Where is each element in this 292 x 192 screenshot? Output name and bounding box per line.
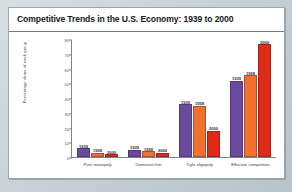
x-axis-category-label: Pure monopoly — [72, 162, 123, 167]
bar[interactable]: 2000 — [258, 44, 271, 157]
bar-groups: 1939195820001939195820001939195820001939… — [72, 40, 276, 157]
bar-value-label: 1939 — [181, 100, 190, 105]
bar-value-label: 2000 — [260, 40, 269, 45]
chart-axes: 01020304050607080 1939195820001939195820… — [71, 40, 276, 158]
y-axis-label: Percentage share of each group — [22, 18, 27, 128]
bar[interactable]: 1958 — [193, 106, 206, 157]
bar[interactable]: 1958 — [91, 153, 104, 157]
y-axis-tick-label: 30 — [55, 111, 69, 116]
bar-value-label: 1958 — [195, 101, 204, 106]
bar[interactable]: 2000 — [156, 153, 169, 157]
bar[interactable]: 1958 — [142, 151, 155, 157]
x-axis-labels: Pure monopolyDominant firmTight oligopol… — [72, 162, 276, 167]
y-axis-tick-label: 0 — [55, 156, 69, 161]
bar-value-label: 1958 — [93, 148, 102, 153]
bar-value-label: 1939 — [232, 76, 241, 81]
bar-value-label: 2000 — [107, 150, 116, 155]
x-axis-category-label: Tight oligopoly — [174, 162, 225, 167]
chart-plot-area: Percentage share of each group 010203040… — [9, 32, 285, 179]
bar-group: 193919582000 — [77, 40, 118, 157]
bar[interactable]: 2000 — [207, 131, 220, 157]
y-axis-tick-label: 50 — [55, 82, 69, 87]
y-axis-tick-label: 70 — [55, 52, 69, 57]
y-axis-tick-label: 40 — [55, 97, 69, 102]
y-axis-tick-label: 80 — [55, 38, 69, 43]
bar-value-label: 1939 — [79, 144, 88, 149]
chart-card: Competitive Trends in the U.S. Economy: … — [8, 7, 285, 179]
x-axis-category-label: Effective competition — [225, 162, 276, 167]
bar-group: 193919582000 — [128, 40, 169, 157]
bar[interactable]: 1939 — [179, 104, 192, 157]
x-axis-line — [71, 157, 276, 158]
bar[interactable]: 1958 — [244, 75, 257, 157]
bar[interactable]: 2000 — [105, 154, 118, 157]
page-title: Competitive Trends in the U.S. Economy: … — [17, 14, 233, 24]
y-axis-tick-mark — [69, 158, 72, 159]
bar-value-label: 1939 — [130, 145, 139, 150]
bar[interactable]: 1939 — [128, 150, 141, 157]
chart-title-bar: Competitive Trends in the U.S. Economy: … — [9, 8, 284, 32]
x-axis-category-label: Dominant firm — [123, 162, 174, 167]
y-axis-tick-label: 20 — [55, 126, 69, 131]
bar[interactable]: 1939 — [77, 148, 90, 157]
y-axis-tick-label: 60 — [55, 67, 69, 72]
bar-group: 193919582000 — [230, 40, 271, 157]
bar-value-label: 1958 — [246, 71, 255, 76]
bar[interactable]: 1939 — [230, 81, 243, 157]
bar-group: 193919582000 — [179, 40, 220, 157]
bar-value-label: 2000 — [209, 126, 218, 131]
bar-value-label: 2000 — [158, 148, 167, 153]
y-axis-tick-label: 10 — [55, 141, 69, 146]
bar-value-label: 1958 — [144, 147, 153, 152]
